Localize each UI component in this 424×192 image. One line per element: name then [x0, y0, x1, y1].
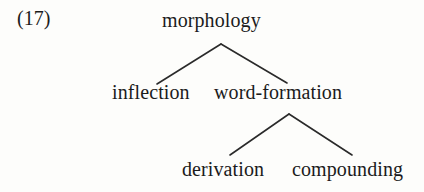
tree-node-morphology: morphology — [162, 10, 261, 30]
branch-word-formation-to-compounding — [289, 114, 352, 155]
branch-root-to-inflection — [157, 44, 221, 84]
tree-node-derivation: derivation — [182, 159, 264, 179]
tree-node-inflection: inflection — [112, 82, 190, 102]
branch-root-to-word-formation — [221, 44, 287, 83]
example-number-label: (17) — [17, 8, 50, 28]
morphology-tree-figure: (17) morphology inflection word-formatio… — [0, 0, 424, 192]
branch-word-formation-to-derivation — [230, 114, 289, 155]
tree-node-compounding: compounding — [292, 159, 403, 179]
tree-node-word-formation: word-formation — [214, 82, 342, 102]
